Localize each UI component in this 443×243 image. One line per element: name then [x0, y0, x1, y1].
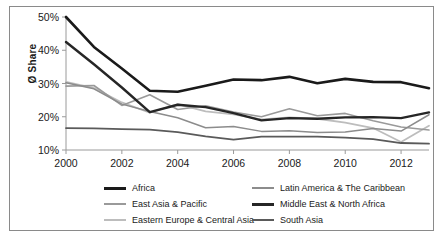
legend-swatch-east-asia-and-pacific [104, 203, 126, 205]
legend-label-latin-america-and-the-caribbean: Latin America & The Caribbean [280, 183, 405, 194]
svg-text:2006: 2006 [222, 157, 246, 169]
svg-text:10%: 10% [38, 144, 59, 156]
svg-text:2002: 2002 [110, 157, 134, 169]
legend-item-eastern-europe-and-central-asia[interactable]: Eastern Europe & Central Asia [104, 215, 252, 226]
svg-text:2000: 2000 [54, 157, 78, 169]
svg-text:2010: 2010 [334, 157, 358, 169]
legend-label-eastern-europe-and-central-asia: Eastern Europe & Central Asia [132, 215, 254, 226]
svg-text:2008: 2008 [278, 157, 302, 169]
svg-text:2004: 2004 [166, 157, 190, 169]
legend-swatch-africa [104, 187, 126, 190]
svg-text:2012: 2012 [389, 157, 413, 169]
chart-legend: Africa Latin America & The Caribbean Eas… [104, 180, 394, 228]
legend-swatch-middle-east-and-north-africa [252, 203, 274, 206]
svg-text:20%: 20% [38, 111, 59, 123]
legend-label-middle-east-and-north-africa: Middle East & North Africa [280, 199, 385, 210]
legend-swatch-south-asia [252, 219, 274, 222]
legend-label-africa: Africa [132, 183, 155, 194]
legend-item-middle-east-and-north-africa[interactable]: Middle East & North Africa [252, 199, 394, 210]
legend-swatch-eastern-europe-and-central-asia [104, 219, 126, 221]
legend-item-latin-america-and-the-caribbean[interactable]: Latin America & The Caribbean [252, 183, 394, 194]
legend-row: Eastern Europe & Central Asia South Asia [104, 212, 394, 228]
legend-swatch-latin-america-and-the-caribbean [252, 187, 274, 189]
legend-item-east-asia-and-pacific[interactable]: East Asia & Pacific [104, 199, 252, 210]
svg-text:50%: 50% [38, 11, 59, 23]
chart-figure: Ø Share 10%20%30%40%50%20002002200420062… [0, 0, 443, 243]
legend-item-africa[interactable]: Africa [104, 183, 252, 194]
legend-label-east-asia-and-pacific: East Asia & Pacific [132, 199, 207, 210]
legend-label-south-asia: South Asia [280, 215, 323, 226]
svg-text:40%: 40% [38, 44, 59, 56]
legend-row: Africa Latin America & The Caribbean [104, 180, 394, 196]
svg-text:30%: 30% [38, 78, 59, 90]
legend-row: East Asia & Pacific Middle East & North … [104, 196, 394, 212]
legend-item-south-asia[interactable]: South Asia [252, 215, 394, 226]
